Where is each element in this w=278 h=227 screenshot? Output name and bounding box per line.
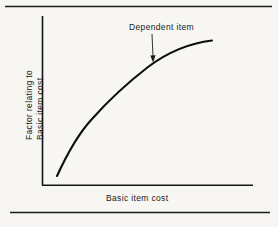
y-axis-label: Factor relating to Basic item cost <box>24 70 45 140</box>
y-axis-label-line-2: Basic item cost <box>35 70 45 140</box>
x-axis-label: Basic item cost <box>106 193 168 203</box>
figure-container: Dependent item Basic item cost Factor re… <box>0 0 278 227</box>
data-curve-dependent-item <box>57 41 212 177</box>
annotation-leader-line <box>152 34 153 57</box>
annotation-label-dependent-item: Dependent item <box>129 22 194 32</box>
y-axis-label-line-1: Factor relating to <box>24 70 34 140</box>
